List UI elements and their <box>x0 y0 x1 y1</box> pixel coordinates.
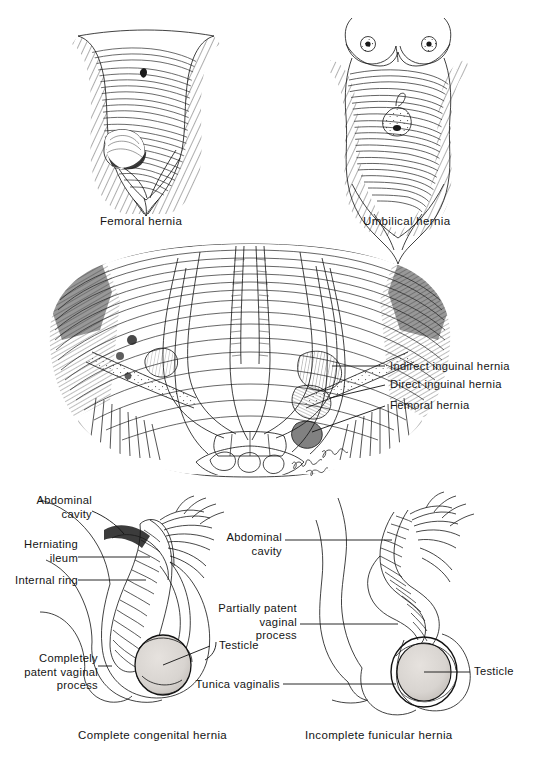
caption-femoral-hernia: Femoral hernia <box>100 215 182 227</box>
label-completely-patent-vaginal-process: Completely patent vaginal process <box>0 652 98 693</box>
label-abdominal-cavity-left: Abdominal cavity <box>0 494 92 521</box>
label-tunica-vaginalis: Tunica vaginalis <box>180 678 280 692</box>
caption-umbilical-hernia: Umbilical hernia <box>363 215 450 227</box>
label-partially-patent-vaginal-process: Partially patent vaginal process <box>180 602 297 643</box>
label-direct-inguinal-hernia: Direct inguinal hernia <box>390 378 502 392</box>
figure-femoral-hernia-drawing <box>60 28 230 228</box>
label-abdominal-cavity-right: Abdominal cavity <box>180 531 282 558</box>
caption-complete-congenital-hernia: Complete congenital hernia <box>78 729 227 741</box>
label-femoral-hernia-internal: Femoral hernia <box>390 399 469 413</box>
figure-incomplete-funicular-drawing <box>283 492 474 715</box>
caption-incomplete-funicular-hernia: Incomplete funicular hernia <box>305 729 453 741</box>
label-herniating-ileum: Herniating ileum <box>0 538 78 565</box>
figure-umbilical-hernia-drawing <box>330 18 480 264</box>
label-internal-ring: Internal ring <box>0 574 78 588</box>
hernia-illustration-plate: Femoral hernia Umbilical hernia Complete… <box>0 0 540 758</box>
label-testicle-right-figure: Testicle <box>474 665 514 679</box>
label-indirect-inguinal-hernia: Indirect inguinal hernia <box>390 360 510 374</box>
